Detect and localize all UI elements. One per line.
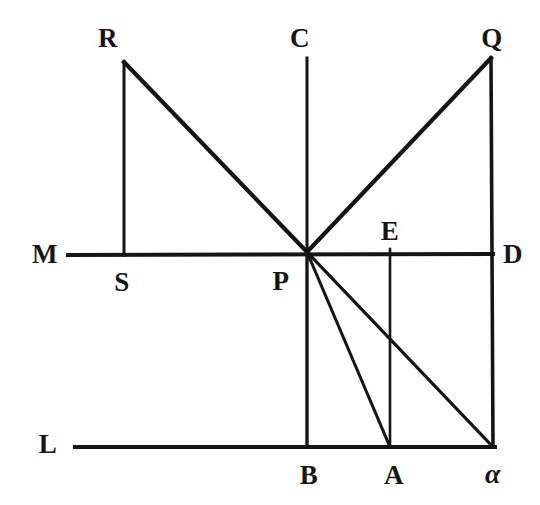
point-label-l: L [39,431,58,458]
point-label-r: R [98,25,118,52]
diagonal-line-PA [307,252,390,447]
point-label-p: P [273,268,290,295]
vertical-line-Q-alpha [491,58,493,447]
point-label-d: D [503,241,523,268]
geometry-diagram: RCQMEDSPLBAα [0,0,540,505]
point-label-s: S [114,269,130,296]
point-label-c: C [290,25,310,52]
point-label-q: Q [481,25,503,52]
point-label-b: B [300,462,319,489]
diagonal-line-P-alpha [307,252,493,447]
point-label-m: M [32,241,58,268]
diagram-canvas [0,0,540,505]
diagonal-line-RP [124,62,307,252]
point-label-alpha: α [485,460,501,488]
horizontal-line-MD [68,254,493,255]
point-label-a: A [384,462,404,489]
point-label-e: E [381,218,400,245]
